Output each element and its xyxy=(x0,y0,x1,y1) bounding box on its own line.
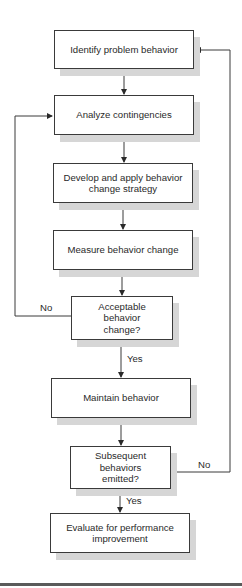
node-identify-problem-behavior: Identify problem behavior xyxy=(54,30,194,69)
connector-lines xyxy=(0,0,242,588)
node-label: Measure behavior change xyxy=(68,244,179,256)
flowchart: Identify problem behavior Analyze contin… xyxy=(0,0,242,588)
edge-label-no: No xyxy=(40,302,52,313)
node-label: Develop and apply behavior change strate… xyxy=(58,172,188,195)
node-label: Analyze contingencies xyxy=(76,109,171,121)
node-label: Subsequent behaviors emitted? xyxy=(87,450,154,485)
bottom-rule xyxy=(0,583,242,586)
node-evaluate-performance: Evaluate for performance improvement xyxy=(50,513,190,553)
node-maintain-behavior: Maintain behavior xyxy=(51,378,191,418)
node-analyze-contingencies: Analyze contingencies xyxy=(54,95,194,135)
node-label: Evaluate for performance improvement xyxy=(59,522,181,545)
decision-subsequent-behaviors: Subsequent behaviors emitted? xyxy=(70,446,171,489)
edge-label-yes: Yes xyxy=(126,495,142,506)
decision-acceptable-change: Acceptable behavior change? xyxy=(71,296,173,340)
edge-label-yes: Yes xyxy=(127,353,143,364)
edge-label-no: No xyxy=(198,459,210,470)
node-develop-strategy: Develop and apply behavior change strate… xyxy=(53,163,193,203)
node-label: Maintain behavior xyxy=(83,392,159,404)
node-label: Identify problem behavior xyxy=(70,44,178,56)
node-measure-behavior-change: Measure behavior change xyxy=(53,230,193,270)
node-label: Acceptable behavior change? xyxy=(86,301,158,336)
